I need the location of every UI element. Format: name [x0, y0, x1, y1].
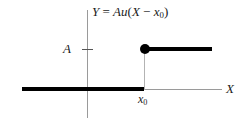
- equation-minus: −: [140, 4, 154, 19]
- equation-variable: X: [132, 4, 140, 19]
- step-function-figure: Y = Au(X − x0) A x0 X: [0, 0, 246, 128]
- x-axis-shift-label-subscript: 0: [143, 98, 147, 107]
- x-axis-label: X: [226, 82, 234, 95]
- y-axis-amplitude-tick: [82, 49, 93, 50]
- equation-title: Y = Au(X − x0): [92, 5, 168, 20]
- curve-segment-before-step: [22, 87, 144, 91]
- x-axis-shift-label: x0: [138, 93, 147, 107]
- y-axis-amplitude-label: A: [63, 42, 71, 55]
- y-axis-line: [87, 10, 88, 118]
- x0-drop-line: [144, 50, 145, 90]
- equation-equals: =: [99, 4, 113, 19]
- equation-amplitude: A: [113, 4, 121, 19]
- curve-segment-after-step: [146, 47, 212, 51]
- equation-close-paren: ): [164, 4, 168, 19]
